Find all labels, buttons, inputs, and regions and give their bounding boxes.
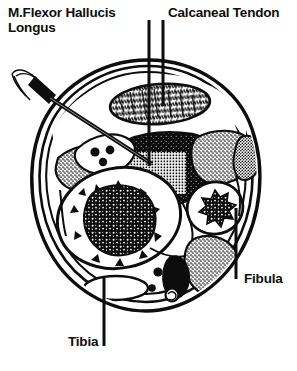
label-calcaneal-tendon: Calcaneal Tendon [168, 6, 279, 21]
label-flexor-hallucis-longus: M.Flexor HallucisLongus [8, 6, 116, 35]
label-fibula: Fibula [244, 272, 283, 287]
label-flexor-hallucis-longus-line1: M.Flexor Hallucis [8, 5, 116, 20]
vessel-profile [148, 284, 156, 292]
nerve-fascicle [106, 146, 115, 155]
stippled-muscle-lateral-right [191, 131, 262, 184]
label-flexor-hallucis-longus-line2: Longus [8, 20, 56, 35]
vessel-profile [153, 267, 162, 276]
leg-cross-section-figure [0, 0, 297, 371]
nerve-fascicle [99, 158, 107, 166]
nerve-fascicle [90, 147, 99, 156]
label-tibia: Tibia [68, 335, 98, 350]
